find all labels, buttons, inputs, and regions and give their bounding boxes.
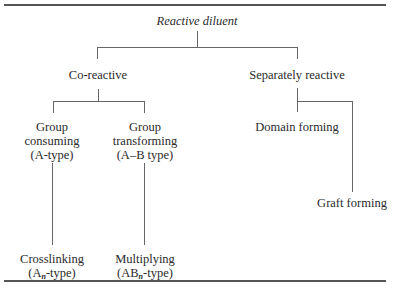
label-line: (A-type) — [25, 148, 80, 162]
connector-to-graft-forming — [352, 101, 353, 192]
top-rule — [4, 4, 386, 6]
node-group-consuming: Group consuming (A-type) — [25, 120, 80, 162]
connector-to-crosslinking — [52, 163, 53, 245]
connector-level1-horizontal — [97, 47, 298, 48]
label-part: (A — [28, 266, 41, 280]
label-line: (ABn-type) — [115, 266, 175, 284]
node-graft-forming: Graft forming — [317, 196, 387, 210]
connector-co-reactive-horizontal — [53, 101, 145, 102]
node-reactive-diluent: Reactive diluent — [157, 14, 238, 28]
label-line: Crosslinking — [20, 252, 84, 266]
connector-to-co-reactive — [97, 47, 98, 59]
node-group-transforming: Group transforming (A–B type) — [113, 120, 178, 162]
label-line: Group — [113, 120, 178, 134]
label-line: Group — [25, 120, 80, 134]
node-domain-forming: Domain forming — [255, 120, 339, 134]
node-separately-reactive: Separately reactive — [249, 68, 344, 82]
label-line: (A–B type) — [113, 148, 178, 162]
node-multiplying: Multiplying (ABn-type) — [115, 252, 175, 284]
label-part: (AB — [117, 266, 139, 280]
node-co-reactive: Co-reactive — [69, 68, 127, 82]
connector-separately-horizontal — [297, 101, 353, 102]
node-crosslinking: Crosslinking (An-type) — [20, 252, 84, 284]
connector-to-multiplying — [144, 163, 145, 245]
label-part: -type) — [46, 266, 76, 280]
label-line: (An-type) — [20, 266, 84, 284]
label-part: -type) — [143, 266, 173, 280]
connector-root-down — [197, 31, 198, 47]
label-line: Multiplying — [115, 252, 175, 266]
connector-co-reactive-down — [98, 89, 99, 101]
label-line: consuming — [25, 134, 80, 148]
connector-to-separately-reactive — [297, 47, 298, 59]
connector-to-group-consuming — [53, 101, 54, 113]
connector-to-group-transforming — [144, 101, 145, 113]
label-line: transforming — [113, 134, 178, 148]
connector-separately-down — [297, 88, 298, 112]
